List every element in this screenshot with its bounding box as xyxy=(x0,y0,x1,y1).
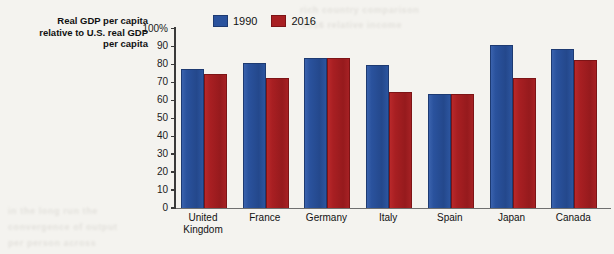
plot-area xyxy=(176,28,608,208)
bar-group-france xyxy=(243,28,289,208)
bar-canada-1990 xyxy=(551,49,574,208)
x-axis-label-line: Canada xyxy=(525,212,614,224)
y-tick-label-30: 30 xyxy=(120,149,168,159)
bar-group-japan xyxy=(490,28,536,208)
bar-germany-2016 xyxy=(327,58,350,208)
bar-group-canada xyxy=(551,28,597,208)
y-tick-label-20: 20 xyxy=(120,167,168,177)
bleed-text: convergence of output xyxy=(8,222,118,232)
bar-japan-2016 xyxy=(513,78,536,208)
bar-spain-2016 xyxy=(451,94,474,208)
y-tick-label-80: 80 xyxy=(120,59,168,69)
bar-france-2016 xyxy=(266,78,289,208)
legend-swatch-icon xyxy=(271,15,286,27)
bar-canada-2016 xyxy=(574,60,597,208)
bar-germany-1990 xyxy=(304,58,327,208)
chart-figure: rich country comparison 2016 relative in… xyxy=(0,0,614,254)
legend-label: 1990 xyxy=(233,15,257,27)
x-axis-label-canada: Canada xyxy=(525,212,614,224)
bleed-text: rich country comparison xyxy=(300,5,419,15)
bleed-text: per person across xyxy=(8,238,96,248)
bar-group-spain xyxy=(428,28,474,208)
bar-group-germany xyxy=(304,28,350,208)
bar-italy-2016 xyxy=(389,92,412,208)
y-tick-label-60: 60 xyxy=(120,95,168,105)
bleed-text: in the long run the xyxy=(8,206,98,216)
bar-group-united-kingdom xyxy=(181,28,227,208)
legend-label: 2016 xyxy=(291,15,315,27)
y-tick-label-70: 70 xyxy=(120,77,168,87)
legend-item-2016: 2016 xyxy=(271,15,315,27)
y-tick-label-40: 40 xyxy=(120,131,168,141)
chart-legend: 19902016 xyxy=(213,15,316,27)
bar-group-italy xyxy=(366,28,412,208)
y-tick-label-90: 90 xyxy=(120,41,168,51)
bar-spain-1990 xyxy=(428,94,451,208)
y-tick-label-10: 10 xyxy=(120,185,168,195)
bar-united-kingdom-2016 xyxy=(204,74,227,208)
bar-italy-1990 xyxy=(366,65,389,208)
bar-france-1990 xyxy=(243,63,266,208)
bar-japan-1990 xyxy=(490,45,513,208)
y-tick-label-50: 50 xyxy=(120,113,168,123)
legend-swatch-icon xyxy=(213,15,228,27)
legend-item-1990: 1990 xyxy=(213,15,257,27)
bar-united-kingdom-1990 xyxy=(181,69,204,208)
y-tick-label-100: 100% xyxy=(120,24,168,34)
x-axis-label-line: Kingdom xyxy=(155,224,251,236)
